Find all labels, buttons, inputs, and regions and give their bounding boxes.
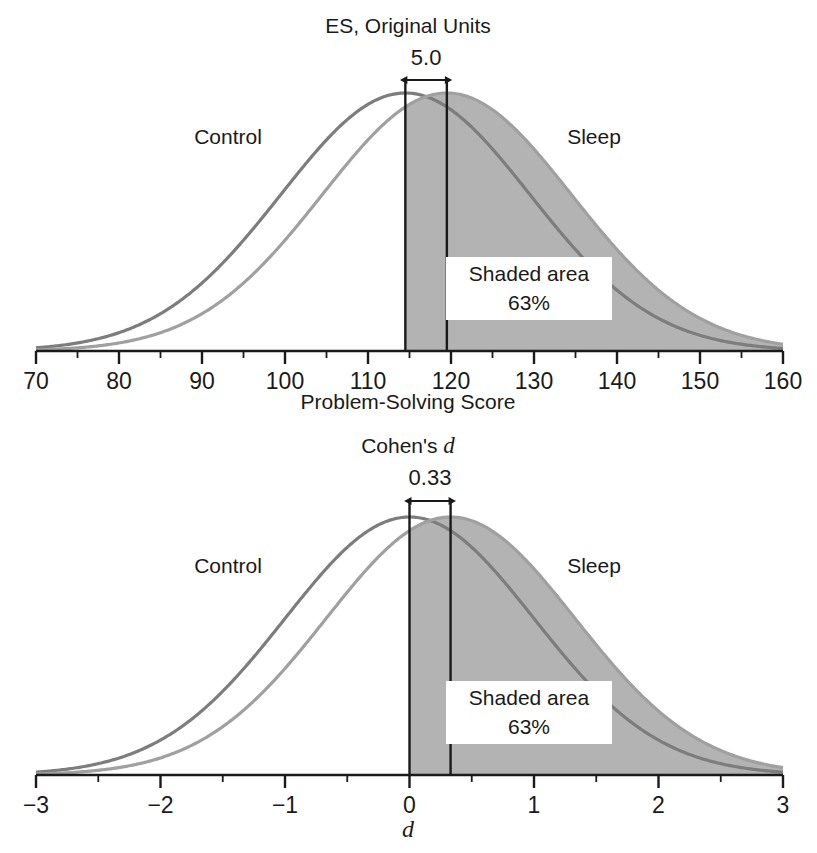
axis-tick-label: 130 (515, 368, 553, 394)
axis-tick-labels: −3−2−10123 (23, 792, 790, 818)
callout-line-1: Shaded area (469, 262, 590, 285)
axis-tick-label: 80 (106, 368, 132, 394)
axis-tick-label: 1 (528, 792, 541, 818)
axis-tick-label: −2 (147, 792, 173, 818)
axis-ticks (36, 775, 783, 788)
axis-tick-label: 70 (23, 368, 49, 394)
panel-title: ES, Original Units (325, 14, 491, 37)
panel-title-text: Cohen's (361, 434, 443, 457)
axis-tick-label: 100 (266, 368, 304, 394)
chart-original-units: ES, Original Units 5.0 Control Sleep Sha… (0, 0, 817, 425)
shaded-area-callout: Shaded area 63% (446, 257, 612, 320)
panel-title-italic: d (443, 433, 455, 458)
axis-tick-label: 140 (598, 368, 636, 394)
axis-tick-label: 3 (777, 792, 790, 818)
axis-tick-label: 0 (403, 792, 416, 818)
axis-tick-label: 90 (189, 368, 215, 394)
callout-line-1: Shaded area (469, 686, 590, 709)
effect-size-figure: ES, Original Units 5.0 Control Sleep Sha… (0, 0, 817, 853)
axis-tick-label: 160 (764, 368, 802, 394)
x-axis: 708090100110120130140150160 (23, 351, 802, 394)
chart-cohens-d: Cohen's d 0.33 Control Sleep Shaded area… (0, 425, 817, 853)
callout-line-2: 63% (508, 291, 550, 314)
effect-size-value: 0.33 (409, 465, 452, 490)
axis-tick-label: 150 (681, 368, 719, 394)
series-label-sleep: Sleep (567, 125, 621, 148)
axis-tick-label: 2 (652, 792, 665, 818)
series-label-control: Control (194, 125, 262, 148)
x-axis-label: Problem-Solving Score (301, 390, 516, 413)
effect-size-value: 5.0 (411, 45, 442, 70)
x-axis-label: d (402, 816, 415, 842)
panel-cohens-d: Cohen's d 0.33 Control Sleep Shaded area… (0, 425, 817, 853)
panel-original-units: ES, Original Units 5.0 Control Sleep Sha… (0, 0, 817, 425)
x-axis: −3−2−10123 (23, 775, 790, 818)
shaded-area-callout: Shaded area 63% (446, 681, 612, 744)
axis-tick-label: −3 (23, 792, 49, 818)
axis-ticks (36, 351, 783, 364)
panel-title: Cohen's d (361, 433, 455, 458)
axis-tick-label: −1 (272, 792, 298, 818)
series-label-control: Control (194, 554, 262, 577)
callout-line-2: 63% (508, 715, 550, 738)
series-label-sleep: Sleep (567, 554, 621, 577)
